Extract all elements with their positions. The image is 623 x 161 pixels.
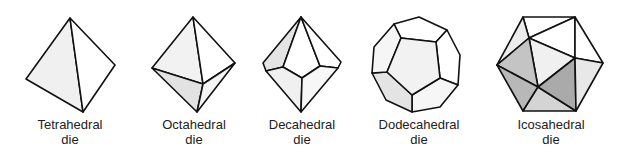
octahedral-die-shape (152, 17, 235, 112)
tetrahedral-die-label: Tetrahedral die (10, 117, 130, 147)
label-line1: Decahedral (242, 117, 362, 132)
icosahedral-die-label: Icosahedral die (491, 117, 611, 147)
label-line1: Octahedral (134, 117, 254, 132)
decahedral-die-shape (263, 17, 341, 112)
icosahedral-die-shape (497, 17, 603, 111)
dodecahedral-die-shape (372, 17, 460, 112)
label-line2: die (10, 132, 130, 147)
decahedral-die-label: Decahedral die (242, 117, 362, 147)
label-line1: Icosahedral (491, 117, 611, 132)
label-line2: die (134, 132, 254, 147)
dodecahedral-die-label: Dodecahedral die (359, 117, 479, 147)
label-line1: Dodecahedral (359, 117, 479, 132)
tetrahedral-die-shape (26, 18, 115, 112)
octahedral-die-label: Octahedral die (134, 117, 254, 147)
label-line2: die (491, 132, 611, 147)
label-line2: die (242, 132, 362, 147)
label-line2: die (359, 132, 479, 147)
label-line1: Tetrahedral (10, 117, 130, 132)
